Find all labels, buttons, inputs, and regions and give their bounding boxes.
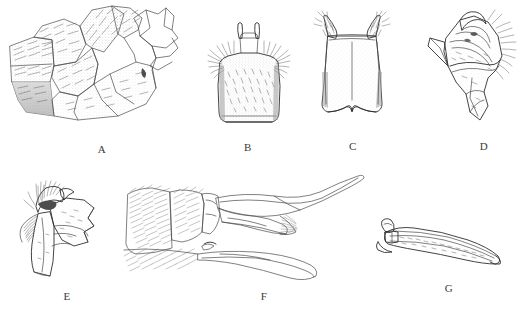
panel-b: B — [206, 20, 294, 138]
panel-b-drawing — [206, 20, 294, 138]
panel-label-e: E — [57, 290, 77, 302]
panel-e-drawing — [8, 172, 104, 288]
panel-d: D — [426, 8, 518, 138]
panel-f: F — [124, 170, 370, 288]
panel-a-drawing — [6, 4, 188, 139]
panel-f-drawing — [124, 170, 370, 288]
panel-label-a: A — [92, 143, 112, 155]
panel-e: E — [8, 172, 104, 288]
panel-label-f: F — [254, 290, 274, 302]
panel-a: A — [6, 4, 188, 139]
panel-label-c: C — [343, 140, 363, 152]
panel-label-b: B — [238, 141, 258, 153]
panel-g-drawing — [372, 218, 512, 280]
panel-c: C — [310, 12, 396, 138]
panel-g: G — [372, 218, 512, 280]
panel-c-drawing — [310, 12, 396, 138]
panel-label-d: D — [474, 140, 494, 152]
panel-label-g: G — [439, 282, 459, 294]
illustration-plate: A — [0, 0, 525, 309]
panel-d-drawing — [426, 8, 518, 138]
